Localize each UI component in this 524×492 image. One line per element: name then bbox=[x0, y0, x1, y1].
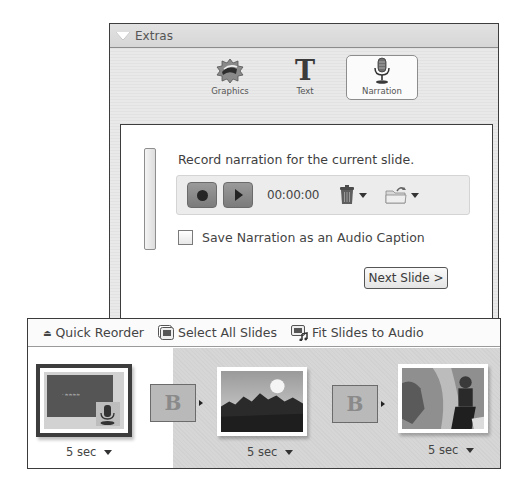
tab-text[interactable]: T Text bbox=[270, 55, 340, 99]
tab-narration-label: Narration bbox=[362, 86, 402, 96]
open-audio-dropdown-button[interactable] bbox=[385, 186, 419, 204]
narration-panel: Record narration for the current slide. … bbox=[120, 124, 493, 324]
chevron-down-icon bbox=[285, 450, 293, 455]
slide-organizer: ⏏ Quick Reorder Select All Slides Fit Sl… bbox=[27, 318, 501, 469]
save-caption-checkbox[interactable] bbox=[178, 230, 193, 245]
tab-graphics-label: Graphics bbox=[211, 86, 249, 96]
fit-to-audio-icon bbox=[291, 325, 308, 341]
narration-controls: 00:00:00 bbox=[176, 175, 470, 215]
record-button[interactable] bbox=[187, 182, 217, 208]
slide-duration: 5 sec bbox=[428, 443, 458, 457]
record-instruction: Record narration for the current slide. bbox=[178, 152, 414, 167]
quick-reorder-label: Quick Reorder bbox=[56, 325, 144, 340]
collapse-triangle-icon[interactable] bbox=[116, 32, 130, 40]
arrow-right-icon bbox=[381, 401, 385, 407]
chevron-down-icon bbox=[411, 193, 419, 198]
filmstrip-toolbar: ⏏ Quick Reorder Select All Slides Fit Sl… bbox=[28, 319, 500, 347]
record-icon bbox=[197, 190, 208, 201]
select-all-label: Select All Slides bbox=[178, 325, 277, 340]
slide-duration: 5 sec bbox=[66, 445, 96, 459]
quick-reorder-button[interactable]: ⏏ Quick Reorder bbox=[43, 325, 144, 340]
audio-level-meter bbox=[144, 148, 156, 250]
arrow-right-icon bbox=[199, 400, 203, 406]
graphics-icon bbox=[215, 55, 245, 86]
select-all-icon bbox=[158, 325, 174, 340]
extras-title: Extras bbox=[135, 29, 173, 43]
text-icon: T bbox=[295, 57, 315, 84]
microphone-icon bbox=[372, 56, 392, 86]
save-caption-option[interactable]: Save Narration as an Audio Caption bbox=[178, 230, 425, 245]
extras-header[interactable]: Extras bbox=[110, 24, 498, 48]
slide-thumbnail[interactable] bbox=[217, 367, 307, 436]
fit-slides-label: Fit Slides to Audio bbox=[312, 325, 424, 340]
chevron-down-icon bbox=[104, 450, 112, 455]
play-button[interactable] bbox=[223, 182, 253, 208]
play-icon bbox=[235, 189, 243, 201]
tab-narration[interactable]: Narration bbox=[346, 55, 418, 100]
extras-tabs: Graphics T Text Narration bbox=[110, 49, 498, 99]
extras-panel: Extras Graphics T Text bbox=[109, 23, 499, 323]
next-slide-button[interactable]: Next Slide > bbox=[364, 267, 448, 289]
slide-duration-dropdown[interactable]: 5 sec bbox=[66, 445, 112, 459]
narration-timer: 00:00:00 bbox=[267, 188, 319, 202]
chevron-down-icon bbox=[466, 448, 474, 453]
tab-graphics[interactable]: Graphics bbox=[195, 55, 265, 99]
transition-icon: B bbox=[165, 391, 182, 415]
filmstrip: · ≈≈≈≈ 5 sec B bbox=[28, 348, 500, 468]
transition-button[interactable]: B bbox=[150, 384, 196, 422]
slide-duration-dropdown[interactable]: 5 sec bbox=[428, 443, 474, 457]
slide-thumbnail[interactable]: · ≈≈≈≈ bbox=[36, 364, 132, 437]
svg-text:· ≈≈≈≈: · ≈≈≈≈ bbox=[62, 392, 80, 397]
select-all-slides-button[interactable]: Select All Slides bbox=[158, 325, 277, 340]
transition-button[interactable]: B bbox=[332, 385, 378, 423]
tab-text-label: Text bbox=[296, 86, 313, 96]
transition-icon: B bbox=[347, 392, 364, 416]
chevron-down-icon bbox=[359, 193, 367, 198]
save-caption-label: Save Narration as an Audio Caption bbox=[202, 230, 425, 245]
folder-open-icon bbox=[385, 186, 407, 204]
delete-dropdown-button[interactable] bbox=[339, 185, 367, 205]
eject-icon: ⏏ bbox=[43, 328, 52, 338]
trash-icon bbox=[339, 185, 355, 205]
slide-duration: 5 sec bbox=[247, 445, 277, 459]
slide-duration-dropdown[interactable]: 5 sec bbox=[247, 445, 293, 459]
slide-thumbnail[interactable] bbox=[398, 364, 488, 433]
fit-slides-to-audio-button[interactable]: Fit Slides to Audio bbox=[291, 325, 424, 341]
